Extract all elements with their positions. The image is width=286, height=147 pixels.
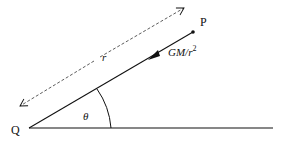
force-arrow-icon bbox=[148, 50, 160, 60]
point-p-dot bbox=[191, 30, 195, 34]
label-force: GM/r2 bbox=[168, 44, 196, 58]
label-r: r bbox=[102, 51, 107, 63]
label-force-main: GM/r bbox=[168, 46, 193, 58]
diagram-canvas: P Q r θ GM/r2 bbox=[0, 0, 286, 147]
label-q: Q bbox=[11, 123, 20, 137]
label-force-exp: 2 bbox=[192, 44, 196, 53]
distance-dashed-line-lower bbox=[20, 61, 94, 106]
label-theta: θ bbox=[83, 110, 89, 122]
angle-arc bbox=[97, 89, 111, 128]
label-p: P bbox=[200, 15, 207, 29]
